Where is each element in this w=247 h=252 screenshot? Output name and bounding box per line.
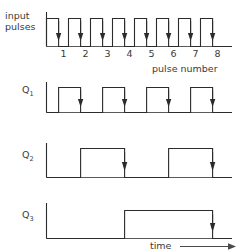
time-axis-label: time (150, 240, 171, 251)
input-falling-edge-arrows (56, 21, 215, 41)
q1-row (47, 82, 233, 113)
q2-row (47, 143, 233, 178)
q3-label-subscript: 3 (29, 215, 33, 223)
q2-label-subscript: 2 (29, 155, 33, 163)
q2-label: Q2 (22, 149, 34, 163)
pulse-number-tick-row: 1 2 3 4 5 6 7 8 (0, 48, 247, 62)
q3-label: Q3 (22, 209, 34, 223)
tick-label-2: 2 (80, 48, 91, 59)
tick-label-6: 6 (168, 48, 179, 59)
tick-label-5: 5 (146, 48, 157, 59)
tick-label-1: 1 (58, 48, 69, 59)
tick-label-4: 4 (124, 48, 135, 59)
q1-waveform (47, 88, 233, 113)
tick-label-7: 7 (190, 48, 201, 59)
q3-waveform (47, 211, 233, 239)
input-pulses-label: input pulses (5, 10, 35, 32)
pulse-number-axis-label: pulse number (152, 63, 218, 74)
tick-label-8: 8 (212, 48, 223, 59)
q2-waveform (47, 149, 233, 178)
input-pulses-row (47, 12, 233, 47)
input-pulses-label-line1: input (5, 10, 35, 21)
tick-label-3: 3 (102, 48, 113, 59)
q1-label: Q1 (22, 84, 34, 98)
q3-falling-edge-arrows (210, 214, 215, 232)
q3-row (47, 203, 233, 239)
input-pulses-waveform (47, 19, 233, 47)
timing-diagram-figure: input pulses 1 2 3 4 5 6 7 8 pulse numbe… (0, 0, 247, 252)
q1-label-subscript: 1 (29, 90, 33, 98)
time-axis-arrow (180, 243, 236, 250)
input-pulses-label-line2: pulses (5, 21, 35, 32)
